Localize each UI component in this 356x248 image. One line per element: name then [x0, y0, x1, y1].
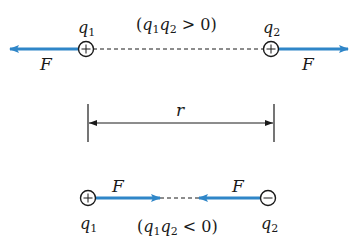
top-q2-label: q2 [263, 18, 280, 39]
bottom-q1-label: q1 [80, 214, 97, 235]
distance-label: r [176, 100, 185, 120]
bottom-q1-charge [81, 191, 96, 206]
top-q2-charge [264, 42, 279, 57]
bottom-q2-charge [261, 191, 276, 206]
top-q1-charge [79, 42, 94, 57]
top-right-force-label: F [301, 54, 315, 74]
bottom-q2-label: q2 [261, 214, 278, 235]
coulomb-force-diagram: q1 q2 (q1q2 > 0) F F r F F q1 q2 (q1q2 <… [0, 0, 356, 248]
top-repulsion-group: q1 q2 (q1q2 > 0) F F [10, 15, 348, 74]
bottom-left-force-label: F [111, 176, 125, 196]
top-condition-label: (q1q2 > 0) [136, 15, 217, 36]
top-left-force-label: F [39, 54, 53, 74]
bottom-right-force-label: F [231, 176, 245, 196]
distance-marker: r [88, 100, 274, 142]
bottom-attraction-group: F F q1 q2 (q1q2 < 0) [80, 176, 278, 238]
bottom-condition-label: (q1q2 < 0) [137, 217, 218, 238]
top-q1-label: q1 [78, 18, 95, 39]
